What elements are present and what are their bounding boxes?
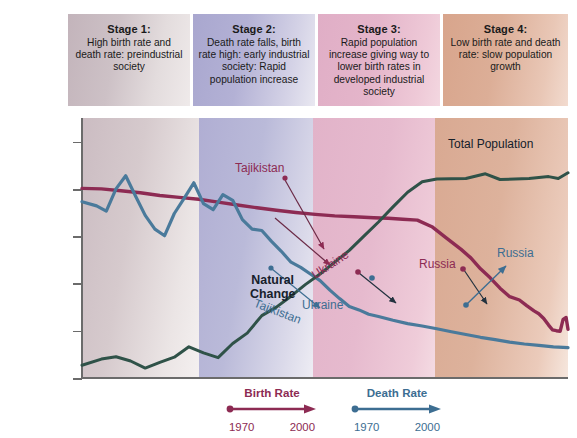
stage-3-title: Stage 3: — [357, 23, 401, 36]
stage-2-description: Death rate falls, birth rate high: early… — [198, 37, 310, 86]
curves-svg — [82, 118, 568, 378]
stage-4-description: Low birth rate and death rate: slow popu… — [448, 37, 563, 74]
stage-header-1: Stage 1: High birth rate and death rate:… — [68, 14, 190, 106]
stage-3-description: Rapid population increase giving way to … — [323, 37, 435, 98]
legend-birth-rate-years: 1970 2000 — [229, 421, 315, 433]
stage-header-4: Stage 4: Low birth rate and death rate: … — [443, 14, 568, 106]
label-natural-change-line2: Change — [250, 287, 295, 301]
stage-1-description: High birth rate and death rate: preindus… — [73, 37, 185, 74]
pointer-ukraine-birth — [275, 218, 330, 265]
legend-death-rate-start: 1970 — [354, 421, 379, 433]
stage-4-title: Stage 4: — [484, 23, 528, 36]
legend-birth-rate-end: 2000 — [290, 421, 315, 433]
stage-header-2: Stage 2: Death rate falls, birth rate hi… — [193, 14, 315, 106]
y-tick-20 — [73, 283, 82, 285]
stage-banner: Stage 1: High birth rate and death rate:… — [68, 14, 568, 106]
legend-death-rate-label: Death Rate — [337, 386, 457, 399]
label-ukraine-death: Ukraine — [302, 298, 343, 312]
y-tick-0 — [73, 378, 82, 380]
legend-death-rate: Death Rate 1970 2000 — [337, 386, 457, 433]
pointer-ukraine-death — [359, 273, 396, 303]
label-russia-death: Russia — [497, 246, 534, 260]
legend-death-rate-arrow — [349, 403, 445, 415]
legend-death-rate-end: 2000 — [415, 421, 440, 433]
legend-death-rate-years: 1970 2000 — [354, 421, 440, 433]
legend: Birth Rate 1970 2000 Death Rate 1970 200… — [82, 386, 568, 434]
pointer-dot-ukraine-birth — [355, 269, 361, 275]
label-natural-change-line1: Natural — [250, 273, 295, 287]
plot-area: 01020304050 — [82, 118, 568, 378]
legend-birth-rate-arrow — [224, 403, 320, 415]
pointer-russia-death — [467, 266, 506, 304]
pointer-dot-tajikistan-death — [268, 265, 273, 270]
pointer-dot-ukraine-death — [369, 275, 375, 281]
pointer-dot-russia-death — [463, 302, 469, 308]
legend-birth-rate: Birth Rate 1970 2000 — [212, 386, 332, 433]
y-tick-30 — [73, 236, 82, 238]
pointer-dot-russia-birth — [460, 266, 466, 272]
legend-birth-rate-start: 1970 — [229, 421, 254, 433]
pointer-dot-tajikistan-birth — [282, 175, 287, 180]
y-tick-50 — [73, 142, 82, 144]
legend-birth-rate-label: Birth Rate — [212, 386, 332, 399]
y-tick-10 — [73, 331, 82, 333]
label-natural-change: Natural Change — [250, 273, 295, 301]
figure-root: Stage 1: High birth rate and death rate:… — [0, 0, 577, 438]
stage-header-3: Stage 3: Rapid population increase givin… — [318, 14, 440, 106]
label-russia-birth: Russia — [419, 257, 456, 271]
label-total-population: Total Population — [448, 137, 533, 151]
stage-2-title: Stage 2: — [232, 23, 276, 36]
stage-1-title: Stage 1: — [107, 23, 151, 36]
label-tajikistan-birth: Tajikistan — [235, 161, 284, 175]
